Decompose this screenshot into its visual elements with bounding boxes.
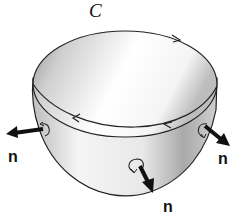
normal-label-right: n xyxy=(218,150,228,168)
normal-arrowhead xyxy=(6,126,18,138)
bowl-surface-figure xyxy=(0,0,244,222)
bowl-inner-opening xyxy=(33,31,217,137)
curve-label-c: C xyxy=(89,0,102,22)
surface-diagram: C n n n xyxy=(0,0,244,222)
normal-arrow-shaft xyxy=(14,129,43,133)
normal-label-left: n xyxy=(8,148,18,166)
normal-label-bottom: n xyxy=(163,198,173,216)
